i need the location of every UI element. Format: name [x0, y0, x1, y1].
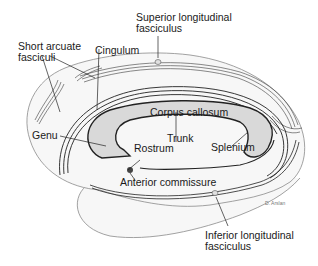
label-rostrum: Rostrum [134, 143, 174, 154]
label-splenium: Splenium [211, 142, 255, 153]
label-corpus-callosum: Corpus callosum [150, 107, 228, 118]
label-genu: Genu [32, 130, 58, 141]
label-short-arcuate-line2: fasciculi [18, 52, 55, 63]
label-inferior-longitudinal-fasciculus-line2: fasciculus [205, 241, 251, 252]
diagram-canvas: Superior longitudinal fasciculus Short a… [0, 0, 318, 266]
ilf-section-marker [212, 191, 218, 196]
label-anterior-commissure: Anterior commissure [120, 177, 216, 188]
credit-text: D. Arslan [265, 198, 285, 209]
slf-section-marker [155, 60, 161, 65]
label-superior-longitudinal-fasciculus-line2: fasciculus [136, 23, 182, 34]
label-cingulum: Cingulum [95, 45, 139, 56]
